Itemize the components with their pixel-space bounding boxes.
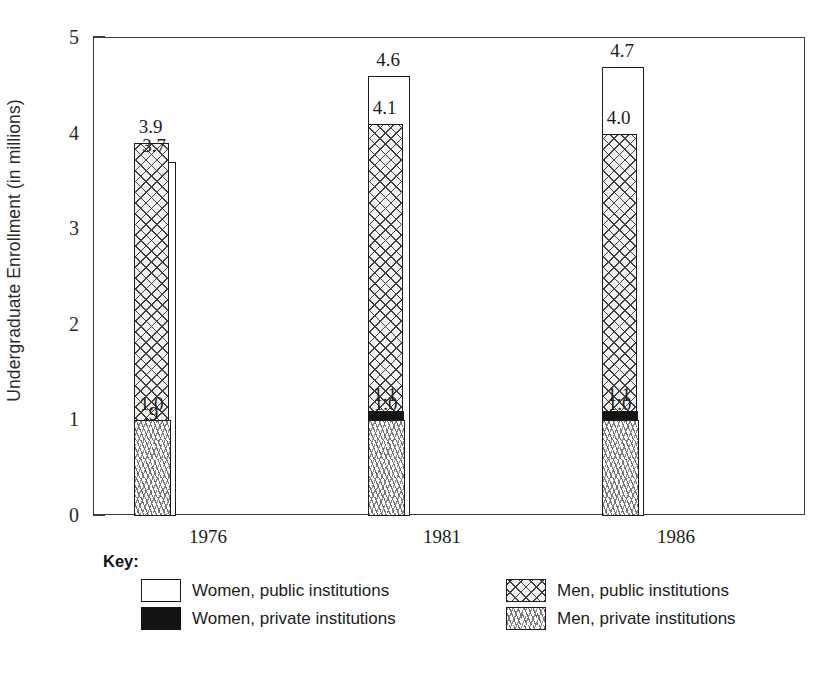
bar-value-label: 1.0 (123, 394, 180, 413)
legend-row: Women, private institutionsMen, private … (141, 607, 803, 635)
plot-area (93, 37, 805, 515)
legend-item-men-public[interactable]: Men, public institutions (506, 579, 729, 602)
legend-item-men-private[interactable]: Men, private institutions (506, 607, 736, 630)
y-axis-tick-label: 4 (49, 123, 79, 143)
y-axis-tick-label: 0 (49, 505, 79, 525)
bar-value-label: 4.1 (357, 98, 412, 117)
y-axis-tick-label: 1 (49, 409, 79, 429)
x-axis-label-1981: 1981 (392, 527, 492, 546)
bar-value-label: 4.0 (591, 108, 646, 127)
legend-item-women-public[interactable]: Women, public institutions (141, 579, 389, 602)
bar-1981-series4 (368, 420, 405, 516)
bar-1986-series4 (602, 420, 639, 516)
y-axis-tick-label: 2 (49, 314, 79, 334)
y-axis-tick-label: 5 (49, 27, 79, 47)
bar-value-label: 1.0 (357, 394, 414, 413)
legend-label: Men, public institutions (557, 581, 729, 601)
legend-label: Men, private institutions (557, 609, 736, 629)
bar-1976-series4 (134, 420, 171, 516)
legend: Key: Women, public institutionsMen, publ… (103, 552, 803, 635)
bar-value-label: 3.7 (123, 136, 185, 155)
bar-value-label: 1.0 (591, 394, 648, 413)
legend-swatch-men-private-icon (506, 607, 546, 630)
bar-value-label: 4.7 (591, 41, 653, 60)
legend-swatch-women-public-icon (141, 579, 181, 602)
legend-title: Key: (103, 552, 803, 571)
bar-value-label: 3.9 (123, 117, 178, 136)
legend-label: Women, private institutions (192, 609, 396, 629)
x-axis-label-1976: 1976 (158, 527, 258, 546)
y-axis-title: Undergraduate Enrollment (in millions) (4, 0, 25, 531)
chart-page: Undergraduate Enrollment (in millions) 0… (0, 0, 833, 675)
bar-value-label: 4.6 (357, 50, 419, 69)
legend-swatch-men-public-icon (506, 579, 546, 602)
legend-grid: Women, public institutionsMen, public in… (141, 579, 803, 635)
legend-item-women-private[interactable]: Women, private institutions (141, 607, 396, 630)
legend-label: Women, public institutions (192, 581, 389, 601)
x-axis-label-1986: 1986 (626, 527, 726, 546)
legend-swatch-women-private-icon (141, 607, 181, 630)
legend-row: Women, public institutionsMen, public in… (141, 579, 803, 607)
y-axis-tick-label: 3 (49, 218, 79, 238)
